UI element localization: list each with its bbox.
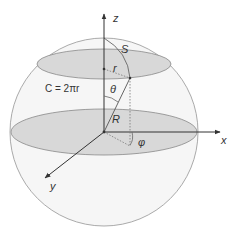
latitude-center-dot (103, 68, 106, 71)
circumference-label: C = 2πr (45, 83, 80, 94)
surface-point-dot (129, 77, 132, 80)
z-axis-label: z (112, 12, 119, 24)
x-axis-label: x (220, 134, 227, 146)
phi-label: φ (138, 136, 145, 148)
origin-dot (103, 131, 106, 134)
theta-label: θ (110, 83, 116, 95)
radius-label: R (112, 113, 120, 125)
arc-s-label: S (121, 43, 129, 55)
sphere-diagram: z x y S r C = 2πr θ R φ (0, 0, 237, 238)
